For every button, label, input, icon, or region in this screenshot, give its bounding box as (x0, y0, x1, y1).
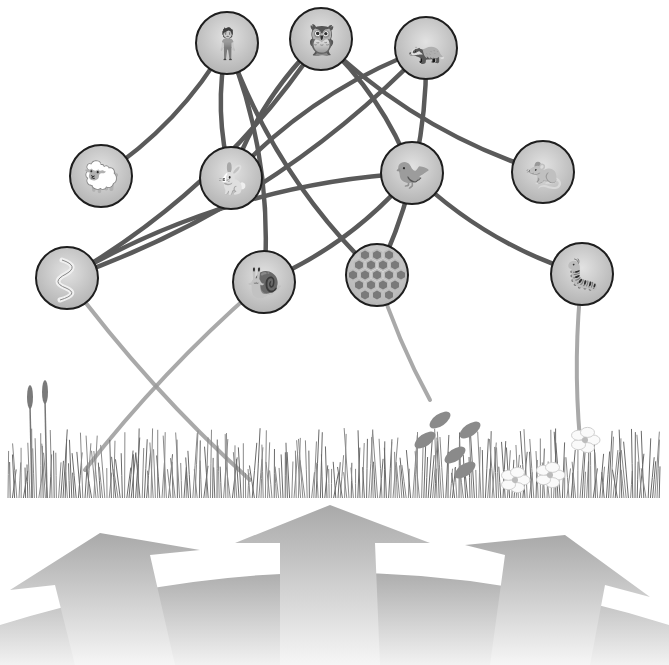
rabbit-icon: 🐇 (213, 161, 250, 196)
grass-blade (305, 440, 307, 498)
grass-blade (281, 454, 283, 498)
flower-petal (580, 427, 594, 437)
flower-petal (510, 467, 524, 477)
plant-links (67, 274, 582, 480)
grass-blade (497, 447, 499, 498)
node-badger: 🦡Badger (395, 17, 457, 79)
grass-blade (214, 467, 215, 498)
grass-blade (157, 455, 160, 498)
reed-stem (30, 405, 32, 498)
organism-nodes: 🧍Human🦉Owl🦡Badger🐑Sheep🐇Rabbit🐦Songbird🐀… (36, 8, 613, 313)
node-owl: 🦉Owl (290, 8, 352, 70)
flower-center (512, 477, 518, 483)
node-shrew: 🐀Shrew (512, 141, 574, 203)
grass-blade (25, 468, 26, 498)
node-rabbit: 🐇Rabbit (200, 147, 262, 209)
grass-blade (213, 458, 214, 498)
honeycomb-cell (384, 250, 394, 261)
grass-blade (292, 462, 293, 498)
nettle-leaf (427, 408, 454, 432)
honeycomb-cell (372, 250, 382, 261)
honeycomb-cell (348, 270, 358, 281)
grass-blade (321, 454, 322, 498)
grass-blade (482, 450, 483, 498)
grass-blade (648, 438, 651, 498)
energy-arrows (0, 505, 669, 665)
grass-blade (426, 457, 428, 498)
grass-blade (286, 443, 287, 498)
grass-blade (270, 470, 272, 498)
grass-blade (35, 438, 36, 498)
node-snail: 🐌Snail (233, 251, 295, 313)
grass-blade (641, 431, 644, 498)
honeycomb-cell (360, 290, 370, 301)
grass-blade (279, 468, 281, 498)
owl-icon: 🦉 (303, 22, 340, 57)
shrew-icon: 🐀 (525, 155, 563, 190)
grass-blade (220, 467, 221, 498)
honeycomb-cell (354, 260, 364, 271)
node-honeycomb: Bees / Honeycomb (346, 244, 408, 306)
grass-blade (121, 453, 122, 498)
grass-blade (54, 451, 55, 498)
grass-blade (144, 439, 147, 498)
grass-blade (624, 442, 629, 498)
node-worm: Earthworm (36, 247, 98, 309)
honeycomb-cell (366, 280, 376, 291)
honeycomb-cell (384, 270, 394, 281)
grass-blade (309, 451, 310, 498)
honeycomb-cell (390, 260, 400, 271)
grass-blade (28, 443, 30, 498)
flower-center (547, 472, 553, 478)
nettle-leaf (442, 443, 469, 467)
honeycomb-cell (360, 250, 370, 261)
caterpillar-icon: 🐛 (564, 257, 601, 292)
node-caterpillar: 🐛Caterpillar (551, 243, 613, 305)
sheep-icon: 🐑 (83, 158, 120, 194)
plant-link-snail (85, 282, 264, 470)
grass-blade (295, 451, 296, 498)
flower-petal (545, 462, 559, 472)
grass-blade (367, 439, 368, 498)
grass-blade (329, 469, 330, 498)
node-human: 🧍Human (196, 12, 258, 74)
food-web-diagram: 🧍Human🦉Owl🦡Badger🐑Sheep🐇Rabbit🐦Songbird🐀… (0, 0, 669, 665)
grass-blade (659, 466, 660, 498)
honeycomb-cell (372, 270, 382, 281)
grass-blade (19, 462, 21, 498)
grass-blade (476, 470, 477, 498)
grass-blade (154, 449, 156, 498)
grass-blade (27, 464, 28, 498)
grass-blade (340, 455, 343, 498)
honeycomb-cell (360, 270, 370, 281)
human-icon: 🧍 (209, 26, 246, 61)
node-sheep: 🐑Sheep (70, 145, 132, 207)
grass-blade (59, 462, 61, 498)
badger-icon: 🦡 (408, 31, 445, 66)
grass-blade (650, 457, 654, 498)
grass-blade (142, 448, 144, 498)
grass-blade (181, 463, 182, 498)
plant-link-worm (67, 278, 250, 480)
grass-blade (587, 461, 589, 498)
grass-blade (200, 461, 201, 498)
flower-center (582, 437, 588, 443)
honeycomb-cell (372, 290, 382, 301)
honeycomb-cell (354, 280, 364, 291)
snail-icon: 🐌 (246, 265, 283, 300)
grass-blade (637, 462, 638, 498)
honeycomb-cell (378, 280, 388, 291)
grass-blade (69, 463, 70, 498)
grass-blade (8, 451, 9, 498)
node-bird: 🐦Songbird (381, 142, 443, 204)
grass-blade (499, 467, 501, 498)
grass-blade (56, 453, 57, 498)
reed-stem (45, 400, 47, 498)
grass-blade (395, 452, 396, 498)
food-links (67, 39, 582, 282)
grass-blade (10, 462, 11, 498)
grassland (8, 380, 660, 498)
grass-blade (33, 448, 35, 498)
grass-blade (584, 472, 585, 498)
grass-blade (422, 444, 424, 498)
